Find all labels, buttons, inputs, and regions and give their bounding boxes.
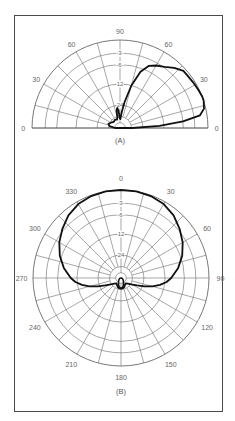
plot-a-caption: (A) (115, 136, 126, 145)
plot-a-angle-tick-label: 90 (116, 28, 124, 35)
plot-a-pattern-line (108, 66, 204, 129)
plot-a-angle-tick-label: 30 (200, 76, 208, 83)
polar-plot-a: 030609060300 -3--6--12--24- (A) (0, 0, 235, 150)
plot-a-angle-tick-label: 0 (21, 125, 25, 132)
plot-a-radial-line (128, 66, 182, 120)
plot-a-ring-label: -6- (116, 62, 123, 68)
plot-a-angle-tick-label: 60 (68, 41, 76, 48)
plot-a-radial-line (58, 66, 112, 120)
plot-a-ring-label: -12- (115, 81, 126, 87)
plot-a-angle-tick-label: 30 (32, 76, 40, 83)
plot-a-angle-tick-label: 60 (165, 41, 173, 48)
plot-a-ring-label: -3- (116, 50, 123, 56)
plot-a-angle-tick-label: 0 (215, 125, 219, 132)
